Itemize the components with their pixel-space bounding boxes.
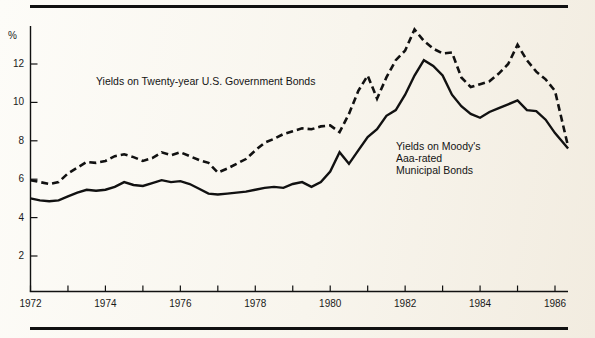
data-series bbox=[31, 29, 569, 201]
series-label-municipal-bonds-line2: Aaa-rated bbox=[396, 152, 442, 165]
x-tick-label: 1978 bbox=[237, 298, 273, 309]
y-tick-label: 10 bbox=[2, 96, 24, 107]
plot-area bbox=[0, 0, 595, 338]
x-tick-label: 1986 bbox=[537, 298, 573, 309]
axes bbox=[30, 26, 568, 292]
y-tick-label: 2 bbox=[2, 250, 24, 261]
x-tick-label: 1972 bbox=[13, 298, 49, 309]
x-tick-label: 1976 bbox=[162, 298, 198, 309]
y-tick-label: 8 bbox=[2, 135, 24, 146]
series-line-government-bonds bbox=[31, 29, 569, 184]
series-label-government-bonds: Yields on Twenty-year U.S. Government Bo… bbox=[96, 75, 315, 88]
x-tick-label: 1984 bbox=[462, 298, 498, 309]
y-tick-label: 4 bbox=[2, 212, 24, 223]
y-tick-label: 12 bbox=[2, 58, 24, 69]
chart-figure: % 24681012 19721974197619781980198219841… bbox=[0, 0, 595, 338]
y-tick-label: 6 bbox=[2, 173, 24, 184]
series-label-municipal-bonds-line3: Municipal Bonds bbox=[396, 164, 473, 177]
x-tick-label: 1982 bbox=[387, 298, 423, 309]
x-tick-label: 1980 bbox=[312, 298, 348, 309]
y-axis-unit-label: % bbox=[8, 30, 17, 41]
x-tick-label: 1974 bbox=[87, 298, 123, 309]
series-label-municipal-bonds-line1: Yields on Moody's bbox=[396, 140, 481, 153]
